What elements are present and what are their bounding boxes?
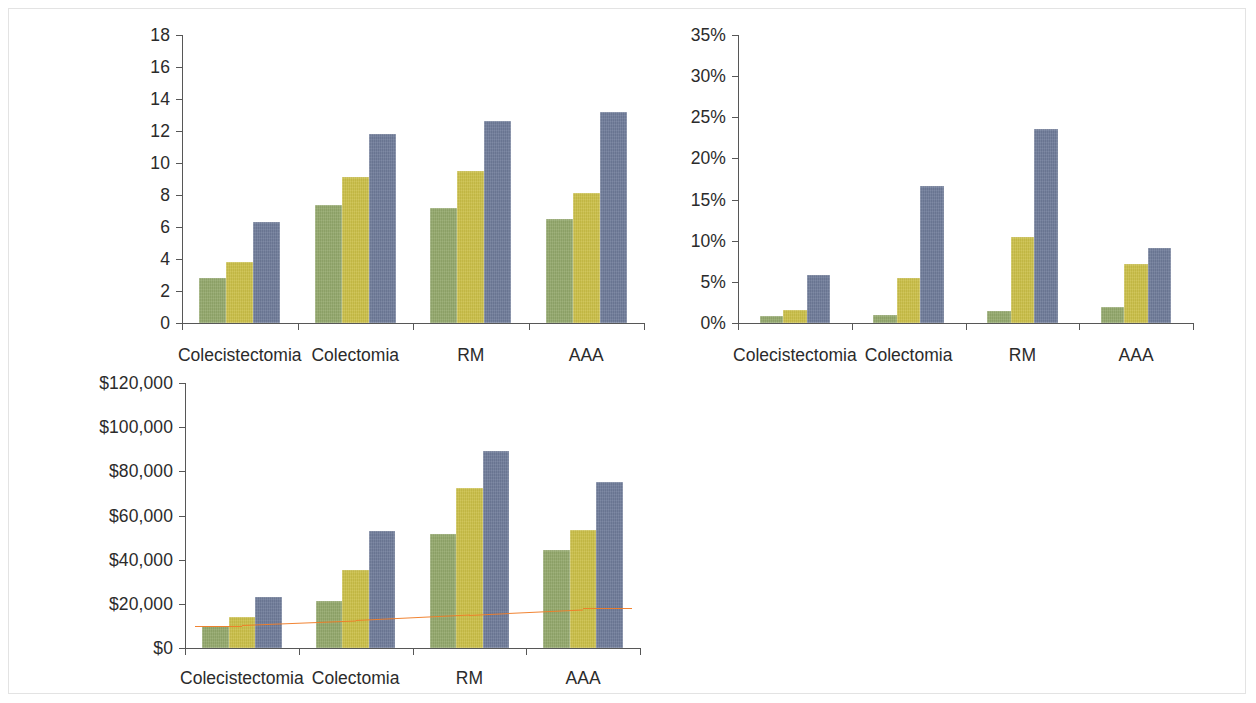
y-axis-tick <box>732 241 738 242</box>
x-axis-tick <box>526 648 527 655</box>
x-axis-category-label: AAA <box>1119 345 1154 366</box>
bar <box>570 530 597 648</box>
x-axis-category-label: Colecistectomia <box>180 668 304 689</box>
y-axis-tick <box>176 259 182 260</box>
y-axis-tick-label: $100,000 <box>60 417 173 438</box>
y-axis-tick-label: 0 <box>60 313 170 334</box>
bar <box>1148 248 1172 323</box>
y-axis-line <box>185 383 186 648</box>
bar <box>484 121 511 323</box>
x-axis-category-label: RM <box>457 345 484 366</box>
bar <box>483 451 510 648</box>
y-axis-tick <box>176 67 182 68</box>
bar <box>430 534 457 648</box>
y-axis-tick <box>179 471 185 472</box>
y-axis-tick <box>176 99 182 100</box>
x-axis-tick <box>738 323 739 330</box>
trend-line-segment <box>583 608 632 609</box>
y-axis-tick-label: $120,000 <box>60 373 173 394</box>
bar <box>920 186 944 323</box>
bar <box>873 315 897 323</box>
trend-line-segment <box>195 626 242 627</box>
y-axis-tick <box>176 131 182 132</box>
bar <box>573 193 600 323</box>
y-axis-tick-label: 35% <box>668 25 726 46</box>
x-axis-tick <box>413 323 414 330</box>
bar <box>1124 264 1148 323</box>
y-axis-tick <box>732 158 738 159</box>
figure-page: 024681012141618ColecistectomiaColectomia… <box>0 0 1256 703</box>
y-axis-tick-label: 0% <box>668 313 726 334</box>
x-axis-tick <box>299 648 300 655</box>
bar <box>1034 129 1058 323</box>
x-axis-category-label: RM <box>456 668 483 689</box>
x-axis-tick <box>852 323 853 330</box>
y-axis-tick-label: 2 <box>60 281 170 302</box>
y-axis-tick <box>732 76 738 77</box>
bar <box>897 278 921 323</box>
plot-area: 0%5%10%15%20%25%30%35%ColecistectomiaCol… <box>668 20 1223 383</box>
y-axis-tick-label: 18 <box>60 25 170 46</box>
bar <box>199 278 226 323</box>
y-axis-tick <box>732 117 738 118</box>
y-axis-tick <box>179 560 185 561</box>
y-axis-tick <box>732 200 738 201</box>
y-axis-tick-label: $40,000 <box>60 549 173 570</box>
bar <box>457 171 484 323</box>
x-axis-tick <box>644 323 645 330</box>
y-axis-line <box>738 35 739 323</box>
y-axis-tick-label: $20,000 <box>60 593 173 614</box>
x-axis-tick <box>185 648 186 655</box>
bar <box>342 570 369 648</box>
bar <box>316 601 343 648</box>
y-axis-tick-label: 5% <box>668 271 726 292</box>
bar <box>202 626 229 648</box>
y-axis-tick-label: 25% <box>668 107 726 128</box>
bar <box>369 531 396 648</box>
y-axis-tick-label: 30% <box>668 66 726 87</box>
x-axis-category-label: Colectomia <box>312 668 400 689</box>
y-axis-tick-label: 14 <box>60 89 170 110</box>
x-axis-tick <box>1193 323 1194 330</box>
y-axis-tick <box>176 227 182 228</box>
y-axis-tick <box>176 35 182 36</box>
x-axis-tick <box>298 323 299 330</box>
y-axis-tick-label: 20% <box>668 148 726 169</box>
y-axis-tick <box>732 35 738 36</box>
y-axis-tick <box>179 604 185 605</box>
y-axis-tick <box>179 427 185 428</box>
y-axis-tick-label: $80,000 <box>60 461 173 482</box>
x-axis-category-label: AAA <box>569 345 604 366</box>
x-axis-category-label: Colectomia <box>865 345 953 366</box>
y-axis-tick-label: 10% <box>668 230 726 251</box>
x-axis-category-label: RM <box>1009 345 1036 366</box>
bar <box>987 311 1011 323</box>
y-axis-tick <box>176 291 182 292</box>
x-axis-tick <box>640 648 641 655</box>
x-axis-category-label: Colecistectomia <box>178 345 302 366</box>
x-axis-category-label: AAA <box>566 668 601 689</box>
bar <box>783 310 807 323</box>
plot-area: 024681012141618ColecistectomiaColectomia… <box>60 20 674 383</box>
bar <box>229 617 256 648</box>
bar <box>1101 307 1125 323</box>
x-axis-tick <box>529 323 530 330</box>
bar <box>1011 237 1035 323</box>
bar <box>342 177 369 323</box>
y-axis-tick-label: 6 <box>60 217 170 238</box>
bar <box>226 262 253 323</box>
coste-chart: $0$20,000$40,000$60,000$80,000$100,000$1… <box>60 368 660 688</box>
x-axis-tick <box>182 323 183 330</box>
y-axis-tick-label: 8 <box>60 185 170 206</box>
bar <box>369 134 396 323</box>
y-axis-tick-label: 4 <box>60 249 170 270</box>
y-axis-line <box>182 35 183 323</box>
x-axis-tick <box>413 648 414 655</box>
y-axis-tick <box>732 282 738 283</box>
bar <box>807 275 831 323</box>
bar <box>430 208 457 323</box>
y-axis-tick <box>179 383 185 384</box>
plot-area: $0$20,000$40,000$60,000$80,000$100,000$1… <box>60 368 670 703</box>
y-axis-tick <box>179 516 185 517</box>
bar <box>456 488 483 648</box>
